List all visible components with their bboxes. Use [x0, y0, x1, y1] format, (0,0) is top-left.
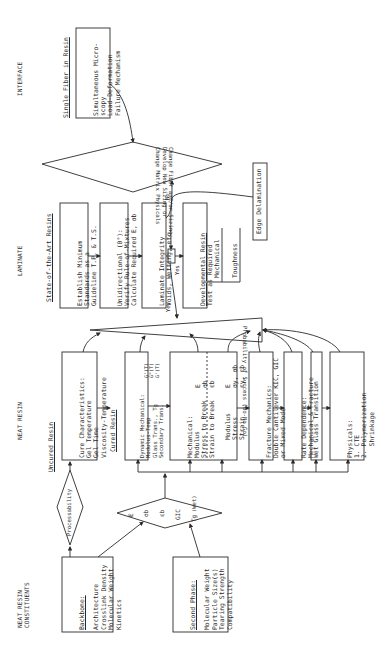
cure-text: Cure Characteristics:Gel TemperatureGel …	[64, 377, 116, 458]
sym-eps-b: εb	[159, 510, 166, 517]
flowchart-canvas: INTERFACE LAMINATE NEAT RESIN NEAT RESIN…	[0, 0, 388, 664]
sym-wet: (Wet)	[191, 495, 197, 512]
label-no: No	[164, 193, 170, 200]
mechanical-syms-right: Eσy, σbεy, εb	[210, 365, 254, 388]
unidirectional-text: Unidirectional (0°):Verify Rule-of-Mixtu…	[102, 214, 146, 306]
mechanical-text-right: ModulusStressStrain	[210, 413, 254, 440]
physicals-text: Physicals:1. CTE2. Polymerization Shrink…	[332, 393, 384, 458]
sym-sigma-b: σb	[143, 510, 150, 517]
label-yes-1: Yes	[174, 265, 180, 275]
change-diamond	[42, 142, 222, 192]
second-phase-text: Second Phase:​Molecular WeightParticle S…	[175, 568, 241, 630]
label-yes-2: Yes	[165, 302, 171, 312]
dynamic-right-text: G'(T)G"(T)G'(T)	[132, 363, 167, 378]
column-label-laminate: LAMINATE	[17, 246, 24, 277]
sym-gic: GIC	[175, 509, 182, 520]
processability-text: Processability	[66, 489, 72, 536]
probability-triangle	[90, 318, 262, 342]
edge-delamination-text: Edge Delamination	[256, 169, 263, 234]
single-fiber-text: Simultaneous Micro-scopyLoad-Deformation…	[78, 43, 130, 116]
dynamic-text: Dynamic Mechanical:Modulus-TempGlass Tra…	[126, 394, 171, 458]
sym-e: E	[128, 513, 135, 517]
connector-lines	[0, 0, 388, 664]
single-fiber-title: Single Fiber in Resin	[63, 37, 70, 118]
uncured-title: Uncured Resin	[48, 422, 55, 472]
column-label-constituents: NEAT RESIN CONSTITUENTS	[17, 582, 31, 628]
branch-mechanical: Mechanical	[214, 240, 221, 278]
sym-tg: Tg	[191, 515, 198, 522]
column-label-interface: INTERFACE	[17, 62, 24, 96]
branch-toughness: Toughness	[232, 243, 239, 278]
establish-text: Establish MinimumStandards as aGuideline…	[62, 225, 106, 306]
state-of-art-title: State-of-the-Art Resins	[46, 214, 53, 303]
column-label-neat-resin: NEAT RESIN	[17, 402, 24, 440]
backbone-text: Backbone:​ArchitectureCrosslink DensityM…	[64, 565, 130, 630]
wet-text: Wet Glass Transition	[313, 381, 320, 458]
cured-title: Cured Resin	[110, 410, 117, 452]
